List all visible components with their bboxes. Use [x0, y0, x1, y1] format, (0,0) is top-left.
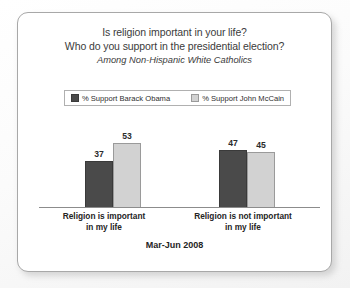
- bar-value-mccain-0: 53: [122, 132, 132, 141]
- bar-value-obama-1: 47: [228, 139, 238, 148]
- axis-baseline: [39, 207, 320, 208]
- legend-entry-mccain: % Support John McCain: [191, 94, 284, 103]
- category-label-1-line-1: Religion is not important: [178, 211, 308, 222]
- category-label-0-line-1: Religion is important: [39, 211, 169, 222]
- bar-column-obama-0: 37: [85, 127, 113, 207]
- chart-title-line-2: Who do you support in the presidential e…: [18, 40, 331, 54]
- chart-frame: Is religion important in your life? Who …: [17, 12, 332, 272]
- legend-entry-obama: % Support Barack Obama: [71, 94, 170, 103]
- footer-date-note: Mar-Jun 2008: [18, 240, 331, 250]
- category-label-religion-not-important: Religion is not important in my life: [178, 211, 308, 232]
- category-label-1-line-2: in my life: [178, 222, 308, 233]
- legend-label-obama: % Support Barack Obama: [82, 94, 170, 103]
- plot-area: 37 53 47 45: [39, 121, 320, 208]
- bar-column-mccain-1: 45: [247, 127, 275, 207]
- title-block: Is religion important in your life? Who …: [18, 26, 331, 67]
- bar-mccain-1[interactable]: [247, 152, 275, 207]
- obama-swatch-icon: [71, 94, 79, 102]
- bar-obama-1[interactable]: [219, 150, 247, 207]
- chart-legend: % Support Barack Obama % Support John Mc…: [64, 90, 291, 106]
- bar-value-obama-0: 37: [94, 150, 104, 159]
- bar-column-mccain-0: 53: [113, 127, 141, 207]
- category-label-0-line-2: in my life: [39, 222, 169, 233]
- mccain-swatch-icon: [191, 94, 199, 102]
- bar-group-religion-not-important: 47 45: [219, 127, 275, 207]
- bar-value-mccain-1: 45: [256, 141, 266, 150]
- category-label-religion-important: Religion is important in my life: [39, 211, 169, 232]
- legend-label-mccain: % Support John McCain: [202, 94, 284, 103]
- chart-title-line-1: Is religion important in your life?: [18, 26, 331, 40]
- bar-column-obama-1: 47: [219, 127, 247, 207]
- bar-group-religion-important: 37 53: [85, 127, 141, 207]
- bar-mccain-0[interactable]: [113, 143, 141, 207]
- chart-page: Is religion important in your life? Who …: [0, 0, 350, 288]
- chart-subtitle: Among Non-Hispanic White Catholics: [18, 54, 331, 67]
- bar-obama-0[interactable]: [85, 161, 113, 207]
